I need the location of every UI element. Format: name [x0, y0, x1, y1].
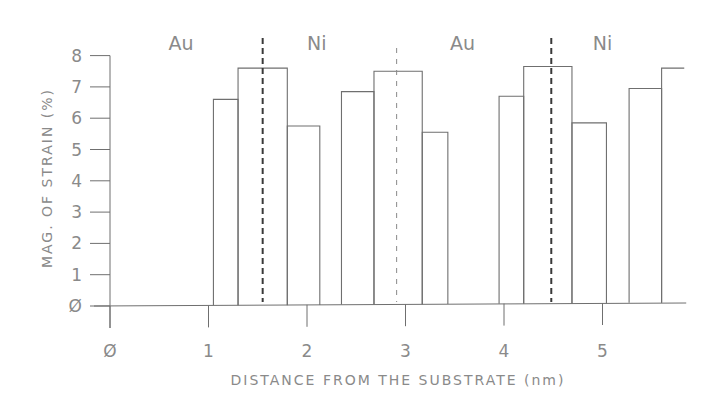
y-tick-label: 5 [71, 140, 82, 160]
y-tick-label: 6 [71, 108, 82, 128]
x-tick-label: 1 [203, 341, 214, 361]
y-tick-label: Ø [69, 296, 82, 316]
bar [524, 67, 572, 304]
y-tick-label: 8 [71, 46, 82, 66]
y-tick-label: 4 [71, 171, 82, 191]
layer-labels: AuNiAuNi [168, 32, 612, 54]
x-tick-label: Ø [103, 341, 116, 361]
y-tick-label: 3 [71, 202, 82, 222]
x-axis-title: DISTANCE FROM THE SUBSTRATE (nm) [231, 372, 566, 388]
y-tick-label: 7 [71, 77, 82, 97]
bar [341, 92, 374, 305]
interface-lines [263, 38, 552, 302]
y-tick-label: 1 [71, 265, 82, 285]
y-axis-title: MAG. OF STRAIN (%) [39, 88, 55, 268]
axes: Ø12345678Ø12345 [69, 46, 687, 361]
y-tick-label: 2 [71, 233, 82, 253]
bar [662, 68, 685, 303]
bar [572, 123, 606, 303]
layer-label-ni: Ni [307, 32, 327, 54]
strain-bar-chart: Ø12345678Ø12345 AuNiAuNi DISTANCE FROM T… [0, 0, 718, 412]
bar [287, 126, 320, 305]
bar [374, 71, 422, 304]
x-tick-label: 2 [302, 341, 313, 361]
x-tick-label: 4 [499, 341, 510, 361]
bar [422, 132, 448, 304]
x-tick-label: 5 [597, 341, 608, 361]
x-axis-line [94, 303, 686, 306]
x-tick-label: 3 [400, 341, 411, 361]
bar [213, 99, 238, 305]
bar [499, 96, 524, 303]
layer-label-au: Au [450, 32, 475, 54]
layer-label-ni: Ni [593, 32, 613, 54]
layer-label-au: Au [168, 32, 193, 54]
bar [629, 88, 662, 302]
bars [213, 67, 684, 306]
